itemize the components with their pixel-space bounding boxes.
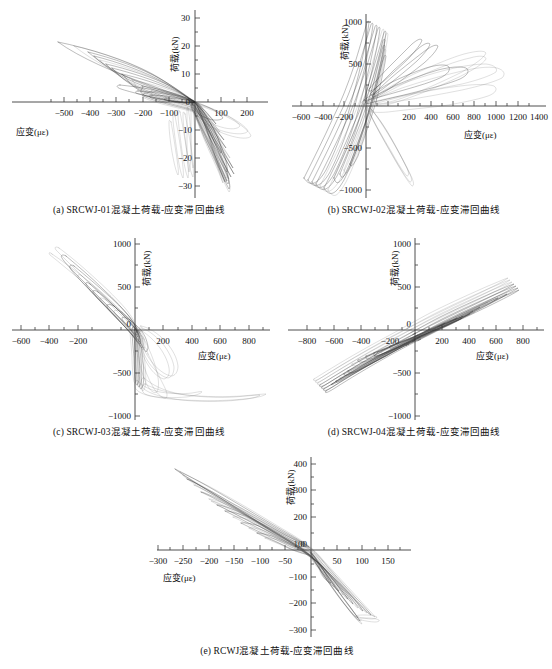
- panel-a-xtick-4: −100: [160, 108, 179, 118]
- panel-d-xtick-7: 600: [489, 336, 503, 346]
- figure-sheet: −500 −400 −300 −200 −100 100 200 30 20 1…: [0, 0, 552, 669]
- panel-c-ytick-3: −500: [112, 368, 131, 378]
- panel-e-xtick-0: −300: [149, 556, 168, 566]
- panel-b-xtick-2: −200: [335, 112, 354, 122]
- panel-d-xtick-5: 200: [435, 336, 449, 346]
- panel-b-ytick-4: −1000: [339, 185, 363, 195]
- panel-e-ytick-2: 200: [294, 512, 308, 522]
- panel-b-ylabel: 荷载(kN): [339, 25, 350, 60]
- panel-d-xtick-0: −800: [298, 336, 317, 346]
- panel-b-xtick-8: 1000: [487, 112, 506, 122]
- panel-e-ylabel: 荷载(kN): [285, 470, 296, 505]
- panel-c-ytick-1: 500: [118, 282, 132, 292]
- panel-a-svg: −500 −400 −300 −200 −100 100 200 30 20 1…: [2, 2, 276, 202]
- panel-b-xtick-6: 600: [446, 112, 460, 122]
- panel-a-xtick-2: −300: [107, 108, 126, 118]
- panel-b-hysteresis-curves: [304, 21, 504, 195]
- panel-a-xtick-7: 200: [240, 108, 254, 118]
- panel-b-caption: (b) SRCWJ-02混凝土荷载-应变滞回曲线: [278, 202, 550, 216]
- panel-d-xtick-8: 800: [516, 336, 530, 346]
- panel-e: −300 −250 −200 −150 −100 −50 50 100 150 …: [139, 447, 415, 667]
- panel-b-xtick-5: 400: [424, 112, 438, 122]
- panel-e-axes: [157, 457, 411, 637]
- panel-a-axes: [12, 10, 268, 198]
- panel-c-ytick-0: 1000: [113, 239, 132, 249]
- panel-c-xtick-6: 600: [213, 336, 227, 346]
- panel-c-xlabel: 应变(με): [198, 350, 231, 361]
- panel-c-hysteresis-curves: [49, 247, 266, 402]
- panel-b: −600 −400 −200 200 400 600 800 1000 1200…: [278, 2, 550, 224]
- panel-b-xtick-0: −600: [292, 112, 311, 122]
- panel-c-xtick-7: 800: [242, 336, 256, 346]
- panel-e-xtick-2: −200: [200, 556, 219, 566]
- panel-a-xtick-1: −400: [81, 108, 100, 118]
- panel-c-caption: (c) SRCWJ-03混凝土荷载-应变滞回曲线: [2, 424, 276, 438]
- panel-c-ytick-4: −1000: [108, 411, 132, 421]
- panel-e-caption: (e) RCWJ混凝土荷载-应变滞回曲线: [139, 643, 415, 657]
- panel-c-xtick-2: −200: [69, 336, 88, 346]
- panel-e-xtick-1: −250: [174, 556, 193, 566]
- panel-d-xtick-1: −600: [325, 336, 344, 346]
- panel-e-xtick-7: 50: [333, 556, 343, 566]
- panel-c-xtick-1: −400: [40, 336, 59, 346]
- panel-e-ytick-6: −200: [288, 598, 307, 608]
- panel-e-plot: −300 −250 −200 −150 −100 −50 50 100 150 …: [139, 447, 415, 643]
- panel-d-plot: −800 −600 −400 −200 200 400 600 800 1000…: [278, 226, 550, 424]
- panel-a-xtick-3: −200: [134, 108, 153, 118]
- panel-b-xtick-7: 800: [467, 112, 481, 122]
- panel-c-svg: −600 −400 −200 200 400 600 800 1000 500 …: [2, 226, 276, 424]
- panel-c-xtick-5: 400: [185, 336, 199, 346]
- panel-b-xtick-9: 1200: [509, 112, 528, 122]
- panel-e-xlabel: 应变(με): [163, 572, 196, 583]
- panel-d-xtick-2: −400: [352, 336, 371, 346]
- panel-b-xtick-10: 1400: [530, 112, 549, 122]
- panel-c-ylabel: 荷载(kN): [141, 251, 152, 286]
- panel-d-xlabel: 应变(με): [476, 350, 509, 361]
- panel-c-xtick-0: −600: [12, 336, 31, 346]
- panel-a-ylabel: 荷载(kN): [169, 37, 180, 72]
- panel-c-plot: −600 −400 −200 200 400 600 800 1000 500 …: [2, 226, 276, 424]
- panel-e-ytick-5: −100: [288, 572, 307, 582]
- panel-d: −800 −600 −400 −200 200 400 600 800 1000…: [278, 226, 550, 446]
- panel-a-ytick-2: 10: [181, 69, 191, 79]
- panel-d-xtick-6: 400: [462, 336, 476, 346]
- panel-e-xtick-8: 100: [355, 556, 369, 566]
- panel-e-ytick-0: 400: [294, 459, 308, 469]
- panel-b-xtick-1: −400: [314, 112, 333, 122]
- panel-d-hysteresis-curves: [313, 278, 519, 393]
- panel-e-ytick-7: −300: [288, 625, 307, 635]
- panel-a-ytick-6: −30: [178, 181, 193, 191]
- panel-d-ytick-0: 1000: [393, 239, 412, 249]
- panel-a-ytick-5: −20: [178, 153, 193, 163]
- panel-a-caption: (a) SRCWJ-01混凝土荷载-应变滞回曲线: [2, 202, 276, 216]
- panel-d-ytick-3: −500: [392, 368, 411, 378]
- panel-d-ylabel: 荷载(kN): [389, 251, 400, 286]
- panel-e-xtick-3: −150: [225, 556, 244, 566]
- panel-c-axes: [12, 238, 270, 420]
- panel-b-plot: −600 −400 −200 200 400 600 800 1000 1200…: [278, 2, 550, 202]
- panel-d-caption: (d) SRCWJ-04混凝土荷载-应变滞回曲线: [278, 424, 550, 438]
- panel-a-xlabel: 应变(με): [16, 126, 49, 137]
- panel-a-plot: −500 −400 −300 −200 −100 100 200 30 20 1…: [2, 2, 276, 202]
- panel-e-hysteresis-curves: [175, 469, 379, 624]
- panel-d-ytick-4: −1000: [388, 411, 412, 421]
- panel-c: −600 −400 −200 200 400 600 800 1000 500 …: [2, 226, 276, 446]
- panel-e-xtick-5: −50: [278, 556, 293, 566]
- panel-a: −500 −400 −300 −200 −100 100 200 30 20 1…: [2, 2, 276, 224]
- panel-a-ytick-1: 20: [181, 41, 191, 51]
- panel-b-svg: −600 −400 −200 200 400 600 800 1000 1200…: [278, 2, 550, 202]
- panel-b-xlabel: 应变(με): [464, 129, 497, 140]
- panel-e-xtick-9: 150: [381, 556, 395, 566]
- panel-a-ytick-0: 30: [181, 13, 191, 23]
- panel-d-svg: −800 −600 −400 −200 200 400 600 800 1000…: [278, 226, 550, 424]
- panel-b-axes: [292, 14, 546, 198]
- panel-b-xtick-4: 200: [402, 112, 416, 122]
- panel-e-xtick-4: −100: [251, 556, 270, 566]
- panel-e-svg: −300 −250 −200 −150 −100 −50 50 100 150 …: [139, 447, 415, 643]
- panel-a-xtick-0: −500: [55, 108, 74, 118]
